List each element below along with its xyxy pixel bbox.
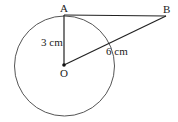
segment-OB <box>64 16 166 65</box>
label-A: A <box>60 2 68 14</box>
label-O: O <box>60 67 68 79</box>
label-B: B <box>163 3 170 15</box>
segment-AB <box>64 15 166 16</box>
label-OB-length: 6 cm <box>106 45 128 57</box>
tangent-circle-diagram: A B O 3 cm 6 cm <box>0 0 178 122</box>
label-OA-length: 3 cm <box>41 36 63 48</box>
